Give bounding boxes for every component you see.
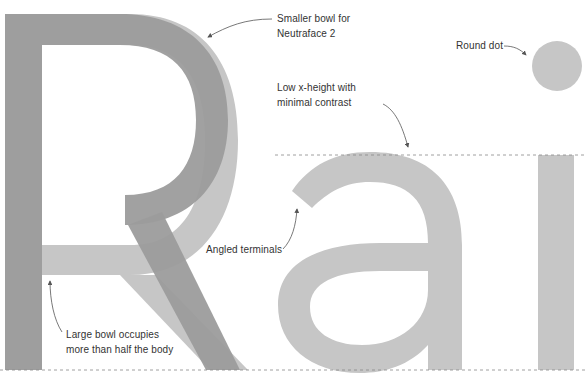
dark-r-glyph xyxy=(5,14,240,370)
annotation-smaller-bowl: Smaller bowl for Neutraface 2 xyxy=(277,11,350,41)
annotation-line: more than half the body xyxy=(66,342,173,357)
annotation-round-dot: Round dot xyxy=(456,38,503,53)
annotation-line: Large bowl occupies xyxy=(66,327,173,342)
angled-terminals-arrow xyxy=(283,209,297,249)
type-specimen-canvas xyxy=(0,0,587,382)
i-dot xyxy=(532,41,582,91)
annotation-angled-terminals: Angled terminals xyxy=(206,242,282,257)
i-glyph xyxy=(532,41,582,370)
large-bowl-arrow xyxy=(50,281,62,332)
annotation-line: Round dot xyxy=(456,38,503,53)
annotation-line: minimal contrast xyxy=(277,95,356,110)
annotation-line: Neutraface 2 xyxy=(277,26,350,41)
smaller-bowl-arrow xyxy=(208,19,272,37)
annotation-low-x-height: Low x-height with minimal contrast xyxy=(277,80,356,110)
i-stem xyxy=(538,155,574,370)
annotation-line: Smaller bowl for xyxy=(277,11,350,26)
annotation-line: Angled terminals xyxy=(206,242,282,257)
annotation-line: Low x-height with xyxy=(277,80,356,95)
round-dot-arrow xyxy=(504,46,526,55)
low-x-height-arrow xyxy=(383,104,408,147)
annotation-large-bowl: Large bowl occupies more than half the b… xyxy=(66,327,173,357)
a-glyph xyxy=(278,152,462,373)
